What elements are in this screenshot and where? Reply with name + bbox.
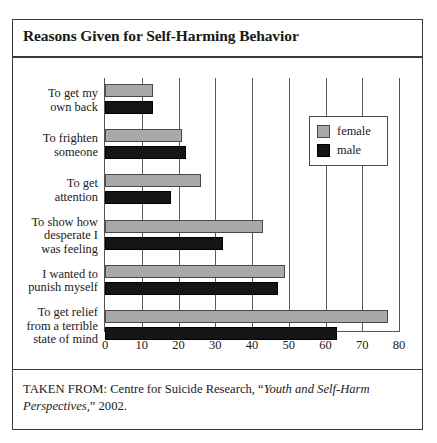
- category-row: To show howdesperate Iwas feeling: [105, 220, 399, 253]
- legend-swatch-male: [317, 144, 330, 157]
- category-row: I wanted topunish myself: [105, 265, 399, 298]
- source-suffix: ” 2002.: [90, 399, 127, 413]
- category-row: To get relieffrom a terriblestate of min…: [105, 310, 399, 343]
- bar-female: [105, 84, 153, 97]
- bar-female: [105, 220, 263, 233]
- legend-item-female: female: [317, 122, 381, 141]
- bar-male: [105, 101, 153, 114]
- category-label: To show howdesperate Iwas feeling: [31, 216, 98, 256]
- bar-female: [105, 265, 285, 278]
- category-label: To frightensomeone: [43, 132, 98, 159]
- legend-label-male: male: [337, 143, 361, 158]
- bar-male: [105, 191, 171, 204]
- category-label: I wanted topunish myself: [28, 268, 98, 295]
- category-label: To get myown back: [48, 87, 98, 114]
- bar-male: [105, 327, 337, 340]
- chart-title: Reasons Given for Self-Harming Behavior: [23, 27, 299, 45]
- legend-swatch-female: [317, 125, 330, 138]
- legend-item-male: male: [317, 141, 381, 160]
- bar-male: [105, 237, 223, 250]
- category-row: To get myown back: [105, 84, 399, 117]
- source-prefix: TAKEN FROM: Centre for Suicide Research,…: [23, 382, 264, 396]
- category-label: To getattention: [55, 177, 98, 204]
- category-label: To get relieffrom a terriblestate of min…: [26, 306, 98, 346]
- footer-divider: [13, 369, 422, 371]
- bar-female: [105, 310, 388, 323]
- bar-female: [105, 129, 182, 142]
- category-row: To getattention: [105, 174, 399, 207]
- chart-legend: femalemale: [309, 116, 388, 166]
- figure-frame: Reasons Given for Self-Harming Behavior …: [12, 19, 423, 430]
- source-note: TAKEN FROM: Centre for Suicide Research,…: [23, 381, 413, 415]
- bar-male: [105, 282, 278, 295]
- bar-male: [105, 146, 186, 159]
- plot-wrapper: 01020304050607080To get myown backTo fri…: [13, 56, 422, 370]
- bar-female: [105, 174, 201, 187]
- legend-label-female: female: [337, 124, 371, 139]
